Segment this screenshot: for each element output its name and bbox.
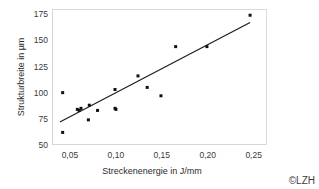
x-tick-0,15: 0,15	[145, 150, 179, 160]
data-point	[146, 86, 149, 89]
data-point	[114, 88, 117, 91]
y-tick-125: 125	[22, 63, 48, 71]
data-point	[61, 131, 64, 134]
y-tick-75: 75	[22, 115, 48, 123]
data-point	[205, 45, 208, 48]
data-point	[96, 109, 99, 112]
x-axis-label: Streckenenergie in J/mm	[44, 166, 260, 176]
y-tick-175: 175	[22, 10, 48, 18]
data-point	[159, 94, 162, 97]
trendline	[60, 23, 250, 122]
x-tick-0,10: 0,10	[99, 150, 133, 160]
x-tick-0,20: 0,20	[191, 150, 225, 160]
data-point	[174, 45, 177, 48]
data-point	[136, 74, 139, 77]
data-point	[80, 107, 83, 110]
y-tick-100: 100	[22, 89, 48, 97]
y-tick-50: 50	[22, 141, 48, 149]
x-tick-0,05: 0,05	[53, 150, 87, 160]
x-axis-tick-labels: 0,050,100,150,200,25	[0, 150, 319, 164]
data-point	[249, 14, 252, 17]
data-point	[87, 118, 90, 121]
chart-figure: Strukturbreite in µm 5075100125150175 0,…	[0, 0, 319, 189]
scatter-points	[61, 14, 251, 134]
data-point	[88, 104, 91, 107]
copyright-notice: ©LZH	[289, 175, 315, 186]
data-point	[114, 108, 117, 111]
x-tick-0,25: 0,25	[237, 150, 271, 160]
plot-svg	[53, 10, 268, 146]
plot-area	[52, 9, 267, 145]
y-tick-150: 150	[22, 36, 48, 44]
data-point	[61, 91, 64, 94]
